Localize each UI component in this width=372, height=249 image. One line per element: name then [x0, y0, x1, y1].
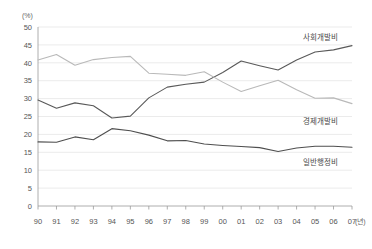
- y-tick-labels: 05101520253035404550: [24, 23, 32, 211]
- x-axis: 909192939495969798990001020304050607 (년): [34, 206, 366, 226]
- x-tick-label: 97: [163, 217, 171, 226]
- y-tick-label: 10: [24, 166, 32, 175]
- x-tick-label: 99: [200, 217, 208, 226]
- y-tick-label: 25: [24, 112, 32, 121]
- y-tick-label: 5: [28, 184, 32, 193]
- x-tick-label: 98: [182, 217, 190, 226]
- x-tick-labels: 909192939495969798990001020304050607: [34, 217, 356, 226]
- y-axis-unit-label: (%): [22, 12, 33, 20]
- series-label: 사회개발비: [303, 32, 338, 42]
- y-tick-label: 15: [24, 148, 32, 157]
- x-tick-label: 04: [292, 217, 300, 226]
- series-line: [38, 55, 352, 104]
- y-tick-label: 30: [24, 94, 32, 103]
- y-tick-label: 40: [24, 59, 32, 68]
- x-axis-unit-label: (년): [355, 217, 366, 226]
- x-tick-label: 94: [108, 217, 116, 226]
- x-tick-label: 93: [89, 217, 97, 226]
- x-tick-label: 05: [311, 217, 319, 226]
- x-tick-label: 95: [126, 217, 134, 226]
- series-label: 경제개발비: [303, 116, 338, 126]
- x-tick-marks: [38, 206, 352, 210]
- x-tick-label: 90: [34, 217, 42, 226]
- line-chart: 05101520253035404550 (%) 909192939495969…: [0, 0, 372, 249]
- x-tick-label: 96: [145, 217, 153, 226]
- y-tick-label: 0: [28, 202, 32, 211]
- x-tick-label: 92: [71, 217, 79, 226]
- y-tick-label: 50: [24, 23, 32, 32]
- x-tick-label: 91: [52, 217, 60, 226]
- series-line: [38, 46, 352, 118]
- series-line: [38, 129, 352, 152]
- x-tick-label: 03: [274, 217, 282, 226]
- y-tick-label: 45: [24, 41, 32, 50]
- x-tick-label: 02: [255, 217, 263, 226]
- y-tick-label: 20: [24, 130, 32, 139]
- chart-canvas: 05101520253035404550 (%) 909192939495969…: [0, 0, 372, 249]
- x-tick-label: 00: [219, 217, 227, 226]
- y-tick-label: 35: [24, 76, 32, 85]
- series-label: 일반행정비: [303, 157, 338, 167]
- y-axis: 05101520253035404550 (%): [22, 12, 38, 211]
- x-tick-label: 01: [237, 217, 245, 226]
- x-tick-label: 06: [329, 217, 337, 226]
